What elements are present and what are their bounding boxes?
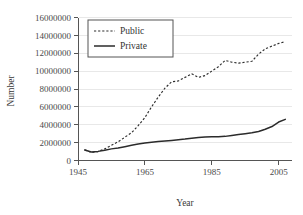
- y-tick-label: 10000000: [35, 66, 72, 76]
- y-tick-label: 12000000: [35, 48, 72, 58]
- y-axis-title: Number: [6, 75, 16, 107]
- chart-figure: 0200000040000006000000800000010000000120…: [0, 0, 303, 215]
- x-tick-label: 1965: [136, 167, 155, 177]
- legend: Public Private: [88, 20, 173, 57]
- x-tick-label: 2005: [270, 167, 289, 177]
- y-tick-label: 8000000: [40, 84, 72, 94]
- series-line-public: [85, 42, 286, 153]
- x-axis-ticks: 1945196519852005: [69, 161, 288, 178]
- x-axis-title: Year: [176, 198, 194, 208]
- x-tick-label: 1945: [69, 167, 88, 177]
- legend-label-public: Public: [120, 26, 144, 36]
- y-tick-label: 6000000: [40, 102, 72, 112]
- y-tick-label: 0: [67, 156, 72, 166]
- y-tick-label: 2000000: [40, 138, 72, 148]
- y-tick-label: 16000000: [35, 13, 72, 23]
- line-chart: 0200000040000006000000800000010000000120…: [0, 0, 303, 215]
- y-tick-label: 4000000: [40, 120, 72, 130]
- y-tick-label: 14000000: [35, 31, 72, 41]
- y-axis-ticks: 0200000040000006000000800000010000000120…: [35, 13, 78, 166]
- series-line-private: [85, 119, 286, 152]
- legend-label-private: Private: [120, 41, 147, 51]
- x-tick-label: 1985: [203, 167, 222, 177]
